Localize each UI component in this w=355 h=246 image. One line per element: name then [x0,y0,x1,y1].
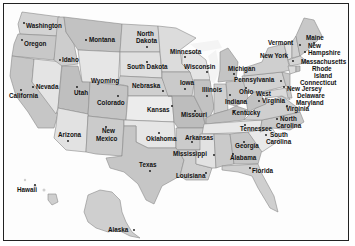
label-maryland: Maryland [296,99,324,107]
label-arizona: Arizona [58,131,82,138]
label-north-carolina-1: North [280,115,297,122]
label-rhode-island-1: Rhode [312,65,332,72]
label-maine: Maine [306,34,324,41]
us-states-map: Washington Oregon Idaho Montana Wyoming … [0,0,355,246]
label-colorado: Colorado [97,99,125,106]
label-alabama: Alabama [230,154,257,161]
label-alaska: Alaska [108,226,129,233]
label-new-hampshire-2: Hampshire [308,49,341,57]
label-south-carolina-2: Carolina [266,138,292,145]
label-new-mexico-2: Mexico [96,135,118,142]
label-florida: Florida [252,167,273,174]
state-rhode-island[interactable] [296,66,300,72]
label-massachusetts: Massachusetts [301,58,347,65]
label-new-hampshire-1: New [308,42,321,49]
label-louisiana: Louisiana [176,172,206,179]
label-idaho: Idaho [62,56,79,63]
label-texas: Texas [139,161,157,168]
label-kentucky: Kentucky [232,109,261,117]
label-washington: Washington [26,22,62,30]
label-michigan: Michigan [228,65,255,73]
state-connecticut[interactable] [288,66,296,74]
label-west-virginia-1: West [256,90,272,97]
label-north-dakota-2: Dakota [136,37,157,44]
label-wisconsin: Wisconsin [184,63,216,70]
label-montana: Montana [89,36,115,43]
label-new-york: New York [260,52,289,59]
label-nebraska: Nebraska [132,82,161,89]
label-missouri: Missouri [181,111,207,118]
label-vermont: Vermont [268,39,294,46]
label-utah: Utah [74,89,88,96]
state-oregon[interactable] [12,34,58,60]
state-arizona[interactable] [54,108,88,152]
label-ohio: Ohio [239,88,253,95]
label-minnesota: Minnesota [170,48,202,55]
label-illinois: Illinois [202,86,222,93]
label-west-virginia-2: Virginia [262,97,285,105]
label-pennsylvania: Pennsylvania [234,76,275,84]
label-rhode-island-2: Island [314,72,332,79]
label-oklahoma: Oklahoma [146,135,177,142]
label-iowa: Iowa [180,79,194,86]
label-south-dakota: South Dakota [127,63,168,70]
label-georgia: Georgia [235,142,259,150]
label-north-carolina-2: Carolina [276,122,302,129]
label-oregon: Oregon [24,40,47,48]
label-california: California [9,92,39,99]
label-tennessee: Tennessee [240,125,273,132]
label-kansas: Kansas [147,106,170,113]
label-mississippi: Mississippi [173,150,207,158]
label-nevada: Nevada [36,83,59,90]
label-wyoming: Wyoming [91,77,119,85]
label-south-carolina-1: South [270,131,288,138]
label-delaware: Delaware [297,92,325,99]
label-north-dakota-1: North [137,30,154,37]
label-virginia: Virginia [286,105,309,113]
label-indiana: Indiana [225,98,248,105]
label-hawaii: Hawaii [17,186,37,193]
label-new-mexico-1: New [102,127,115,134]
label-arkansas: Arkansas [185,134,214,141]
